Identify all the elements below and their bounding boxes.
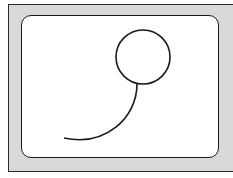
- circle-shape: [116, 30, 170, 84]
- screen-drawing: [0, 0, 233, 178]
- tail-curve: [64, 84, 137, 140]
